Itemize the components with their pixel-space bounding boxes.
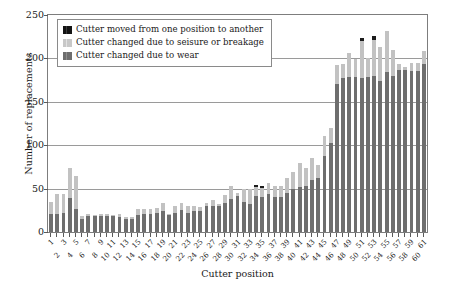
bar-segment [118,217,122,232]
bar-segment [285,178,289,193]
x-tick-mark [348,233,349,237]
x-tick-mark [423,233,424,237]
bar-segment [149,214,153,232]
x-tick-mark [261,233,262,237]
x-tick-mark [156,233,157,237]
bar-segment [180,210,184,232]
x-tick-label: 52 [360,251,372,263]
bar-segment [273,186,277,197]
bar-segment [335,84,339,232]
bar [62,194,66,232]
bar-segment [372,76,376,232]
bar-segment [242,202,246,232]
bar-segment [391,50,395,76]
x-tick-mark [205,233,206,237]
x-tick-mark [230,233,231,237]
bar [329,128,333,232]
x-tick-label: 23 [180,238,192,250]
bar [316,165,320,232]
bar [173,206,177,232]
x-tick-mark [94,233,95,237]
bar-segment [198,211,202,232]
bar [180,203,184,233]
bar-segment [347,77,351,232]
bar-segment [49,214,53,232]
bar-segment [372,40,376,76]
x-tick-label: 38 [274,251,286,263]
bar [372,36,376,232]
x-tick-label: 60 [410,251,422,263]
bar [378,47,382,232]
bar-segment [260,188,264,198]
bar-segment [180,203,184,211]
bar-segment [186,213,190,232]
bar-segment [155,213,159,232]
x-tick-mark [367,233,368,237]
bar-segment [205,206,209,232]
bar-segment [93,216,97,232]
bar [273,186,277,232]
bar-segment [223,195,227,204]
bar-segment [130,219,134,232]
x-tick-label: 27 [205,238,217,250]
x-tick-label: 46 [323,251,335,263]
bar-segment [80,219,84,232]
x-tick-mark [323,233,324,237]
x-tick-mark [168,233,169,237]
x-tick-mark [174,233,175,237]
bar-segment [55,194,59,214]
bar [68,168,72,232]
x-tick-mark [330,233,331,237]
x-axis-title: Cutter position [47,268,428,279]
x-tick-label: 11 [106,238,118,250]
bar-segment [335,65,339,85]
x-tick-mark [305,233,306,237]
bar-segment [279,186,283,197]
x-tick-mark [404,233,405,237]
bar-segment [279,197,283,232]
x-tick-label: 17 [143,238,155,250]
bar-segment [229,199,233,232]
x-tick-label: 31 [230,238,242,250]
x-tick-label: 48 [336,251,348,263]
bar-segment [142,214,146,232]
x-tick-label: 56 [385,251,397,263]
bar [111,215,115,232]
bar-segment [416,71,420,232]
bar-segment [285,193,289,232]
x-tick-label: 41 [292,238,304,250]
bar [285,178,289,232]
x-tick-label: 3 [59,238,67,246]
x-tick-mark [187,233,188,237]
bar-segment [316,178,320,232]
bar [229,186,233,232]
x-tick-mark [131,233,132,237]
x-tick-mark [81,233,82,237]
bar-segment [267,194,271,232]
x-tick-label: 24 [187,251,199,263]
x-tick-label: 6 [78,251,86,259]
bar-segment [68,168,72,198]
bar-segment [173,206,177,213]
bar-segment [229,186,233,199]
legend-label-moved: Cutter moved from one position to anothe… [76,25,263,34]
bar [55,194,59,232]
bar [105,214,109,232]
x-tick-label: 2 [53,251,61,259]
x-tick-mark [106,233,107,237]
bar-segment [329,143,333,232]
x-tick-label: 50 [348,251,360,263]
bar-segment [217,206,221,232]
legend-label-seisure: Cutter changed due to seisure or breakag… [76,38,264,47]
y-tick-label: 200 [26,54,44,64]
x-tick-label: 36 [261,251,273,263]
y-tick-label: 50 [32,184,44,194]
legend-swatch-seisure-icon [63,39,72,47]
bar [99,214,103,232]
bar-chart-figure: Number of replacements 050100150200250 1… [0,0,454,287]
bar [410,63,414,232]
x-tick-label: 20 [162,251,174,263]
x-tick-label: 15 [131,238,143,250]
x-tick-mark [417,233,418,237]
bar-segment [124,219,128,232]
